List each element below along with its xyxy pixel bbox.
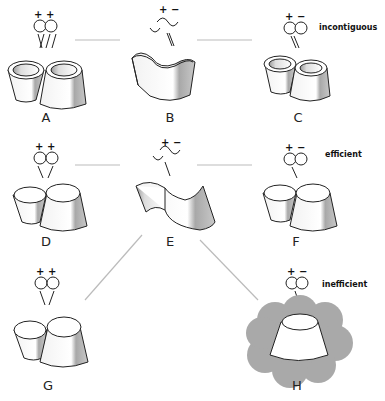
panel-label-d: D: [41, 234, 51, 249]
panel-label-e: E: [166, 234, 174, 249]
panel-label-c: C: [293, 110, 302, 125]
category-label-incontiguous: incontiguous: [319, 23, 377, 32]
panel-h-charge-1: +: [287, 267, 295, 277]
panel-label-g: G: [43, 378, 53, 393]
panel-g-structure: [14, 277, 88, 367]
category-label-efficient: efficient: [325, 150, 362, 159]
panel-label-b: B: [166, 110, 175, 125]
panel-e-charge-2: −: [173, 138, 181, 148]
panel-f-charge-2: −: [297, 143, 305, 153]
panel-a-structure: [8, 20, 86, 109]
panel-d-structure: [13, 152, 87, 231]
panel-e-charge-1: +: [161, 138, 169, 148]
panel-d-charge-2: +: [47, 142, 55, 152]
panel-label-a: A: [42, 110, 51, 125]
panel-g-charge-2: +: [48, 267, 56, 277]
panel-a-charge-1: +: [34, 10, 42, 20]
panel-c-charge-1: +: [285, 12, 293, 22]
panel-a-charge-2: +: [46, 10, 54, 20]
panel-d-charge-1: +: [35, 142, 43, 152]
panel-f-structure: [263, 153, 337, 231]
panel-e-structure: [136, 146, 215, 230]
panel-b-charge-1: +: [159, 5, 167, 15]
panel-b-structure: [132, 18, 195, 100]
diagram-canvas: [0, 0, 385, 401]
panel-c-structure: [264, 22, 330, 101]
panel-f-charge-1: +: [285, 143, 293, 153]
panel-c-charge-2: −: [297, 12, 305, 22]
panel-h-charge-2: −: [299, 267, 307, 277]
panel-b-charge-2: −: [171, 5, 179, 15]
panel-g-charge-1: +: [36, 267, 44, 277]
panel-label-f: F: [292, 234, 299, 249]
category-label-inefficient: inefficient: [322, 280, 367, 289]
panel-h-structure: [246, 277, 353, 388]
panel-label-h: H: [292, 378, 302, 393]
